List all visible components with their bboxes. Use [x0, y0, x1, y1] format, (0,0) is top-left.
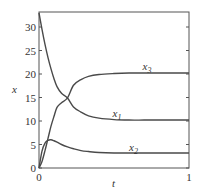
y-tick-label: 30 — [25, 21, 37, 33]
series-line-x2 — [39, 140, 189, 168]
y-tick-label: 20 — [25, 68, 37, 80]
series-lines — [39, 13, 189, 168]
series-labels: x1x2x3 — [112, 60, 152, 155]
x-axis-label: t — [112, 177, 116, 189]
x-tick-label: 1 — [186, 171, 192, 183]
x-tick-label: 0 — [36, 171, 42, 183]
y-axis-label: x — [11, 83, 17, 95]
series-line-x1 — [39, 13, 189, 120]
y-tick-label: 15 — [25, 92, 37, 104]
y-tick-label: 10 — [25, 115, 37, 127]
y-tick-label: 25 — [25, 45, 37, 57]
y-axis-ticks: 051015202530 — [25, 21, 189, 174]
line-chart: 051015202530 01 x1x2x3 x t — [0, 0, 199, 193]
y-tick-label: 5 — [31, 139, 37, 151]
